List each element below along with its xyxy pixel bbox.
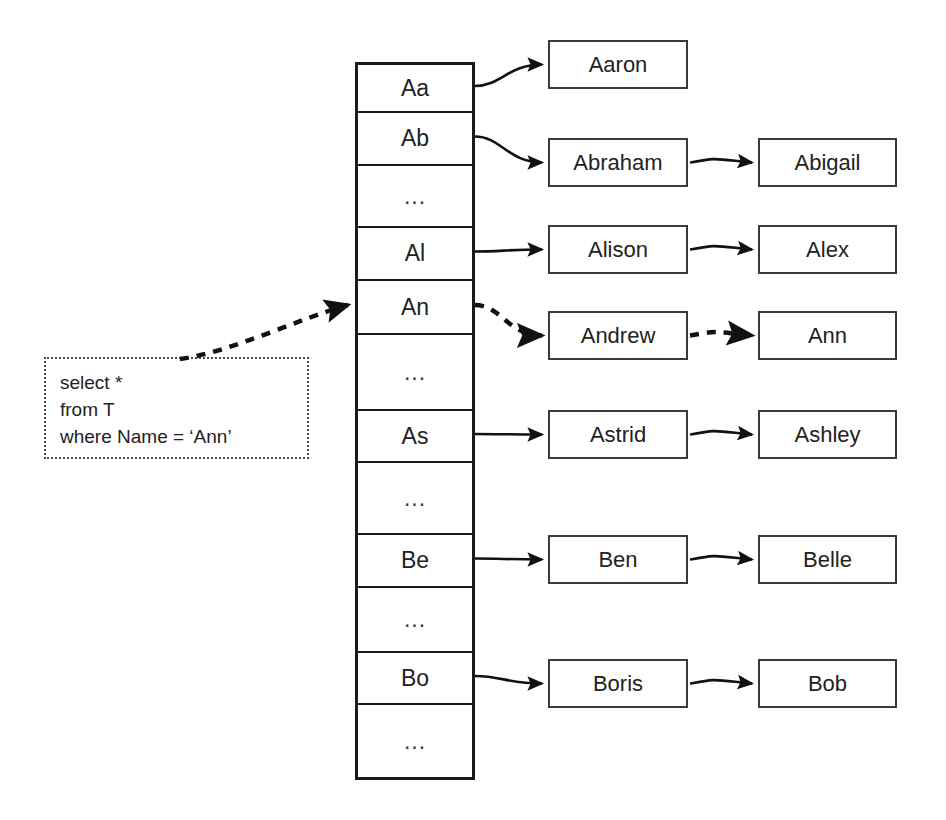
chain-node-ashley: Ashley [758,410,897,459]
arrow-bucket-bo-to-boris [475,676,542,684]
sql-query-annotation: select * from T where Name = ‘Ann’ [44,357,309,459]
bucket-row-aa: Aa [358,65,472,113]
chain-node-astrid: Astrid [548,410,688,459]
chain-node-abigail: Abigail [758,138,897,187]
diagram-canvas: AaAb...AlAn...As...Be...Bo... AaronAbrah… [0,0,946,820]
bucket-row-ellipsis: ... [358,588,472,653]
arrow-boris-to-bob [690,680,752,683]
arrow-ben-to-belle [690,556,752,559]
arrow-bucket-aa-to-aaron [475,65,542,87]
chain-node-aaron: Aaron [548,40,688,89]
bucket-row-ellipsis: ... [358,166,472,228]
arrow-bucket-an-to-andrew [475,305,542,336]
arrow-andrew-to-ann [690,332,752,335]
bucket-row-ellipsis: ... [358,705,472,777]
bucket-row-al: Al [358,228,472,281]
bucket-row-ellipsis: ... [358,463,472,535]
chain-node-alex: Alex [758,225,897,274]
chain-node-andrew: Andrew [548,311,688,360]
query-line-2: from T [60,396,307,423]
arrow-bucket-as-to-astrid [475,434,542,435]
hash-bucket-column: AaAb...AlAn...As...Be...Bo... [355,62,475,780]
chain-node-bob: Bob [758,659,897,708]
chain-node-boris: Boris [548,659,688,708]
arrow-astrid-to-ashley [690,431,752,434]
bucket-row-as: As [358,411,472,463]
chain-node-ben: Ben [548,535,688,584]
chain-node-abraham: Abraham [548,138,688,187]
bucket-row-an: An [358,281,472,335]
arrow-alison-to-alex [690,246,752,249]
chain-node-alison: Alison [548,225,688,274]
query-line-3: where Name = ‘Ann’ [60,423,307,450]
bucket-row-bo: Bo [358,653,472,705]
chain-node-belle: Belle [758,535,897,584]
arrow-bucket-be-to-ben [475,559,542,560]
arrow-bucket-ab-to-abraham [475,137,542,163]
arrow-abraham-to-abigail [690,159,752,162]
chain-node-ann: Ann [758,311,897,360]
arrow-bucket-al-to-alison [475,250,542,252]
arrow-query-to-bucket-an [180,305,348,359]
bucket-row-be: Be [358,535,472,588]
bucket-row-ab: Ab [358,113,472,166]
bucket-row-ellipsis: ... [358,335,472,411]
query-line-1: select * [60,369,307,396]
